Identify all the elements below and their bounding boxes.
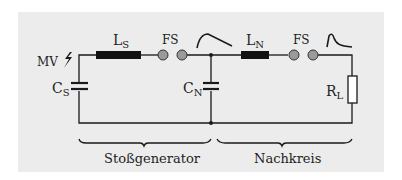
circuit-diagram: CS MV LS FS CN LN FS RL Stoßgenerator Na… [0,0,402,180]
slow-rise-decay-waveform [197,34,232,48]
inductor-ln [241,51,269,59]
brace-stossgenerator [79,139,211,146]
lightning-icon [64,52,72,68]
section-label-stossgenerator: Stoßgenerator [104,151,201,166]
resistor-rl [348,76,357,103]
spark-gap-fs2 [289,50,318,60]
junction-dot-bottom [209,121,213,125]
capacitor-cn [203,83,219,89]
fast-impulse-waveform [327,34,352,47]
capacitor-cs [71,83,88,89]
cn-label: CN [183,80,203,98]
mv-label: MV [37,55,58,69]
cs-label: CS [52,80,70,98]
section-label-nachkreis: Nachkreis [254,151,321,166]
junction-dot-top [209,53,213,57]
fs1-label: FS [162,33,179,47]
brace-nachkreis [217,139,352,146]
rl-label: RL [326,83,344,101]
fs2-label: FS [293,33,310,47]
ln-label: LN [246,32,264,50]
inductor-ls [96,51,141,59]
spark-gap-fs1 [158,50,187,60]
ls-label: LS [113,32,129,50]
